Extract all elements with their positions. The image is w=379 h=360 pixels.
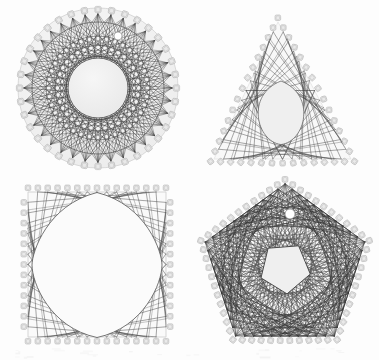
- peg: [104, 185, 110, 191]
- inner-void: [68, 58, 128, 118]
- peg: [352, 282, 359, 289]
- peg: [230, 107, 236, 113]
- peg-body: [363, 246, 370, 253]
- peg: [108, 162, 115, 169]
- peg: [280, 25, 286, 31]
- peg: [104, 338, 110, 344]
- peg: [84, 338, 90, 344]
- peg: [95, 163, 101, 169]
- peg: [25, 185, 31, 191]
- peg-body: [274, 182, 280, 188]
- peg-body: [331, 117, 337, 123]
- peg: [266, 187, 273, 194]
- peg: [94, 338, 100, 344]
- peg: [167, 313, 173, 319]
- peg: [65, 338, 71, 344]
- peg: [320, 96, 327, 103]
- peg-body: [200, 246, 207, 253]
- peg: [290, 160, 297, 167]
- peg: [114, 185, 120, 191]
- peg: [363, 246, 370, 253]
- peg: [45, 185, 51, 191]
- peg: [358, 265, 364, 271]
- peg-body: [269, 160, 275, 166]
- peg: [21, 200, 27, 206]
- hang-hole: [285, 209, 295, 219]
- peg: [269, 160, 275, 166]
- peg: [21, 251, 27, 257]
- peg: [17, 98, 24, 105]
- peg: [143, 185, 149, 191]
- peg: [45, 338, 51, 344]
- peg: [16, 85, 22, 91]
- peg: [124, 338, 130, 344]
- peg: [108, 7, 115, 14]
- peg: [355, 274, 361, 280]
- peg: [17, 71, 24, 78]
- peg: [280, 160, 286, 166]
- peg: [172, 71, 179, 78]
- peg: [200, 246, 207, 253]
- peg: [143, 338, 149, 344]
- peg: [74, 185, 80, 191]
- peg-body: [17, 98, 24, 105]
- peg: [167, 293, 173, 299]
- hang-hole: [114, 32, 122, 40]
- string-art-figure-sheet: [0, 0, 379, 360]
- peg-body: [291, 44, 298, 51]
- peg: [167, 251, 173, 257]
- peg-body: [208, 274, 214, 280]
- peg-body: [270, 25, 276, 31]
- peg: [167, 241, 173, 247]
- peg-body: [320, 96, 327, 103]
- peg: [167, 220, 173, 226]
- figure-square: [21, 185, 173, 344]
- peg: [163, 185, 169, 191]
- peg-body: [361, 255, 367, 261]
- peg: [296, 337, 303, 344]
- peg: [326, 107, 332, 113]
- peg: [270, 25, 276, 31]
- peg: [55, 185, 61, 191]
- peg-body: [297, 187, 304, 194]
- peg-body: [172, 98, 179, 105]
- peg-body: [326, 107, 332, 113]
- peg: [275, 15, 281, 21]
- peg: [167, 200, 173, 206]
- peg-body: [287, 337, 293, 343]
- peg: [211, 282, 218, 289]
- peg: [114, 338, 120, 344]
- peg-body: [172, 71, 179, 78]
- peg: [206, 265, 212, 271]
- peg: [55, 338, 61, 344]
- peg: [21, 241, 27, 247]
- peg-body: [81, 162, 88, 169]
- peg: [95, 6, 101, 12]
- peg-body: [108, 162, 115, 169]
- peg: [167, 324, 173, 330]
- peg-body: [296, 337, 303, 344]
- caption-strip: [0, 350, 379, 360]
- peg: [234, 96, 241, 103]
- peg: [153, 185, 159, 191]
- peg: [291, 44, 298, 51]
- peg: [225, 117, 231, 123]
- peg: [167, 282, 173, 288]
- peg: [361, 255, 367, 261]
- peg: [167, 210, 173, 216]
- peg-body: [352, 282, 359, 289]
- peg-body: [203, 255, 209, 261]
- peg-body: [108, 7, 115, 14]
- peg-body: [355, 274, 361, 280]
- peg: [260, 44, 267, 51]
- peg-body: [81, 7, 88, 14]
- peg: [21, 262, 27, 268]
- peg: [21, 282, 27, 288]
- string-art-canvas: [0, 0, 379, 360]
- peg: [74, 338, 80, 344]
- peg: [277, 337, 283, 343]
- peg: [134, 338, 140, 344]
- peg: [331, 117, 337, 123]
- peg-body: [277, 337, 283, 343]
- peg-body: [225, 117, 231, 123]
